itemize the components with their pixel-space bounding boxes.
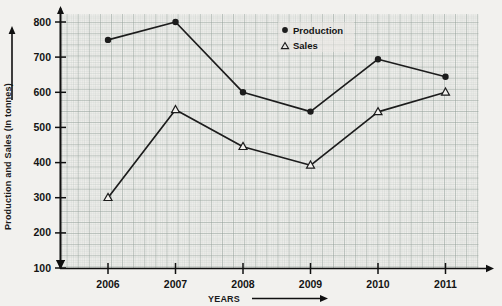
legend-production-label: Production xyxy=(293,25,343,36)
y-tick-label: 300 xyxy=(33,191,51,203)
production-point xyxy=(240,89,246,95)
y-tick-label: 100 xyxy=(33,262,51,274)
x-tick-label: 2008 xyxy=(231,278,255,290)
y-tick-label: 600 xyxy=(33,86,51,98)
y-tick-label: 200 xyxy=(33,226,51,238)
y-axis-title: Production and Sales (In tonnes) xyxy=(3,83,13,230)
production-point xyxy=(442,74,448,80)
x-tick-label: 2007 xyxy=(164,278,188,290)
legend-sales-label: Sales xyxy=(293,40,318,51)
y-tick-label: 400 xyxy=(33,156,51,168)
production-point xyxy=(307,108,313,114)
plot-grid xyxy=(61,14,479,268)
production-point xyxy=(375,56,381,62)
chart-container: 800 700 600 500 400 300 200 100 2006 200… xyxy=(0,0,502,306)
legend-production-marker-icon xyxy=(282,27,288,33)
x-tick-label: 2009 xyxy=(299,278,323,290)
y-tick-label: 800 xyxy=(33,16,51,28)
x-tick-label: 2006 xyxy=(96,278,120,290)
line-chart: 800 700 600 500 400 300 200 100 2006 200… xyxy=(0,0,502,306)
production-point xyxy=(105,37,111,43)
x-axis-title: YEARS xyxy=(208,294,240,304)
x-tick-label: 2010 xyxy=(366,278,390,290)
y-tick-label: 500 xyxy=(33,121,51,133)
x-tick-label: 2011 xyxy=(434,278,457,290)
production-point xyxy=(172,19,178,25)
chart-legend: Production Sales xyxy=(278,22,354,52)
y-tick-label: 700 xyxy=(33,51,51,63)
